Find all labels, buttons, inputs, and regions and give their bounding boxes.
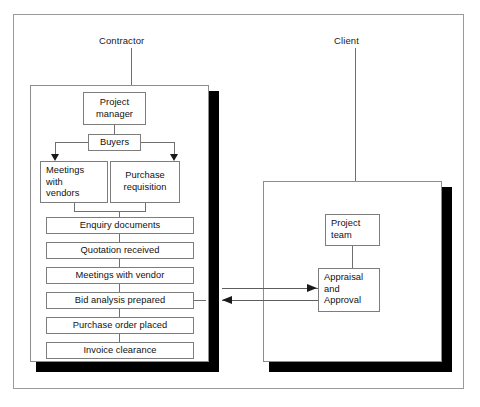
arrow-to-purchase-requisition [170,154,178,161]
branch-right-from-buyers [141,142,174,143]
node-meetings-with-vendors-line2: with [46,177,107,189]
node-purchase-requisition[interactable]: Purchase requisition [110,161,180,203]
contractor-title-connector [131,48,132,85]
node-appraisal-line1: Appraisal [324,272,379,284]
node-step-meetings-with-vendor-label: Meetings with vendor [76,270,165,282]
node-buyers-label: Buyers [100,137,129,149]
node-step-enquiry-documents-label: Enquiry documents [80,220,160,232]
node-appraisal-line3: Approval [324,295,379,307]
node-step-bid-analysis-prepared[interactable]: Bid analysis prepared [46,292,194,309]
node-appraisal-and-approval[interactable]: Appraisal and Approval [318,268,380,312]
diagram-canvas: Contractor Client Project manager Buyers… [0,0,480,407]
node-step-quotation-received-label: Quotation received [81,245,160,257]
connector-step-1-2 [119,234,120,242]
lane-title-contractor: Contractor [99,35,144,46]
connector-step-2-3 [119,259,120,267]
node-purchase-requisition-line2: requisition [124,182,167,194]
node-step-enquiry-documents[interactable]: Enquiry documents [46,217,194,234]
connector-step-4-5 [119,309,120,317]
connector-project-team-to-appraisal [352,246,353,268]
connector-step-3-4 [119,284,120,292]
node-project-team-line2: team [331,230,379,242]
node-step-meetings-with-vendor[interactable]: Meetings with vendor [46,267,194,284]
node-project-manager-line2: manager [96,109,133,121]
node-step-invoice-clearance-label: Invoice clearance [83,345,156,357]
bid-analysis-stub [194,300,206,301]
lane-title-client: Client [334,35,359,46]
arrow-to-meetings-with-vendors [51,154,59,161]
node-meetings-with-vendors-line1: Meetings [46,165,107,177]
node-project-team-line1: Project [331,218,379,230]
node-appraisal-line2: and [324,284,379,296]
connector-step-5-6 [119,334,120,342]
arrowhead-contractor-to-client [307,284,317,292]
node-buyers[interactable]: Buyers [88,134,141,151]
node-project-team[interactable]: Project team [325,214,380,246]
node-step-purchase-order-placed-label: Purchase order placed [73,320,168,332]
node-step-purchase-order-placed[interactable]: Purchase order placed [46,317,194,334]
arrowhead-client-to-contractor [222,296,232,304]
client-title-connector [355,48,356,181]
node-step-quotation-received[interactable]: Quotation received [46,242,194,259]
branch-left-from-buyers [55,142,88,143]
merge-horizontal [74,211,146,212]
node-meetings-with-vendors[interactable]: Meetings with vendors [40,161,108,203]
node-project-manager-line1: Project [100,97,129,109]
node-step-invoice-clearance[interactable]: Invoice clearance [46,342,194,359]
node-project-manager[interactable]: Project manager [83,92,146,125]
node-meetings-with-vendors-line3: vendors [46,188,107,200]
node-purchase-requisition-line1: Purchase [125,170,165,182]
connector-pm-to-buyers [114,125,115,134]
node-step-bid-analysis-prepared-label: Bid analysis prepared [75,295,165,307]
